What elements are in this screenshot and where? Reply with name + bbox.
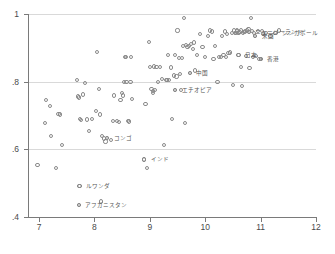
data-point[interactable] [128,80,132,84]
x-tick-label: 9 [139,223,161,232]
data-point[interactable] [35,163,39,167]
data-point[interactable] [224,55,228,59]
data-point[interactable] [178,72,182,76]
data-point[interactable] [85,117,89,121]
data-point[interactable] [83,81,87,85]
x-tick-label: 10 [194,223,216,232]
data-point[interactable] [103,139,107,143]
data-point-labeled[interactable] [259,57,263,61]
point-label: エチオピア [182,87,212,93]
data-point[interactable] [143,102,147,106]
data-point[interactable] [170,117,174,121]
data-point[interactable] [158,65,162,69]
data-point[interactable] [167,78,171,82]
data-point[interactable] [109,138,113,142]
data-point[interactable] [175,28,179,32]
data-point[interactable] [240,84,244,88]
point-label: ニュージーランド [255,29,303,35]
data-point[interactable] [228,50,232,54]
data-point[interactable] [97,87,101,91]
data-point[interactable] [203,55,207,59]
data-point[interactable] [211,57,215,61]
data-point[interactable] [121,93,125,97]
x-tick-label: 11 [250,223,272,232]
data-point-labeled[interactable] [77,203,81,207]
data-point[interactable] [180,56,184,60]
x-tick-label: 12 [305,223,327,232]
data-point[interactable] [169,65,173,69]
point-label: インド [151,156,169,162]
data-point[interactable] [48,104,52,108]
data-point[interactable] [130,97,134,101]
y-tick-label: 1 [0,10,19,18]
data-point[interactable] [162,143,166,147]
data-point[interactable] [247,66,251,70]
data-point-labeled[interactable] [236,53,240,57]
data-point[interactable] [44,98,48,102]
data-point[interactable] [49,134,53,138]
data-point[interactable] [173,53,177,57]
scatter-chart: 1.8.6.4 789101112 シンガポール米国ニュージーランド日本香港中国… [0,0,335,254]
data-point-labeled[interactable] [247,30,251,34]
data-point[interactable] [79,118,83,122]
data-point[interactable] [183,121,187,125]
data-point[interactable] [239,65,243,69]
data-point[interactable] [215,80,219,84]
data-point[interactable] [112,93,116,97]
data-point[interactable] [54,166,58,170]
data-point[interactable] [60,143,64,147]
data-point[interactable] [87,129,91,133]
data-point[interactable] [166,53,170,57]
data-point[interactable] [98,112,102,116]
data-point[interactable] [124,55,128,59]
data-point[interactable] [210,29,214,33]
data-point-labeled[interactable] [142,157,146,161]
data-point-labeled[interactable] [188,71,192,75]
point-label: 日本 [245,52,257,58]
y-tick-label: .8 [0,78,19,86]
x-tick-label: 8 [83,223,105,232]
data-point[interactable] [200,45,204,49]
data-point[interactable] [95,50,99,54]
point-label: 香港 [267,56,279,62]
data-point-labeled[interactable] [173,88,177,92]
y-tick-label: .4 [0,213,19,221]
data-point[interactable] [231,83,235,87]
point-label: ルワンダ [86,183,110,189]
data-point[interactable] [127,119,131,123]
data-point[interactable] [220,34,224,38]
y-tick-mark [24,217,29,218]
data-point[interactable] [213,44,217,48]
data-point[interactable] [192,40,196,44]
data-point[interactable] [191,47,195,51]
data-point[interactable] [75,78,79,82]
data-point[interactable] [118,98,122,102]
point-label: アフガニスタン [85,202,127,208]
data-point[interactable] [129,55,133,59]
point-label: コンゴ [114,135,132,141]
data-point[interactable] [182,16,186,20]
x-tick-label: 7 [28,223,50,232]
data-point[interactable] [58,112,62,116]
data-point[interactable] [153,88,157,92]
x-axis-line [28,217,317,218]
data-point[interactable] [81,92,85,96]
data-point[interactable] [198,32,202,36]
data-point[interactable] [145,166,149,170]
data-point[interactable] [225,32,229,36]
data-point[interactable] [90,117,94,121]
data-point[interactable] [249,16,253,20]
data-point-labeled[interactable] [77,184,81,188]
data-point[interactable] [43,121,47,125]
data-point[interactable] [117,120,121,124]
data-point[interactable] [195,53,199,57]
data-point[interactable] [206,34,210,38]
plot-area: シンガポール米国ニュージーランド日本香港中国エチオピアコンゴインドルワンダアフガ… [28,14,316,217]
point-label: 中国 [196,70,208,76]
data-point[interactable] [147,40,151,44]
y-tick-label: .6 [0,145,19,153]
